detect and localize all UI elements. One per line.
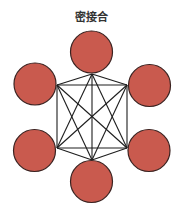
complete-graph-diagram bbox=[0, 0, 183, 215]
edge-upper-right-bottom bbox=[92, 85, 127, 160]
edge-top-upper-left bbox=[57, 74, 92, 85]
graph-edges bbox=[57, 74, 127, 160]
node-bottom bbox=[71, 161, 113, 203]
node-top bbox=[71, 31, 113, 73]
edge-top-upper-right bbox=[92, 74, 127, 85]
edge-bottom-upper-left bbox=[57, 85, 92, 160]
node-upper-left bbox=[14, 63, 56, 105]
node-lower-left bbox=[14, 130, 56, 172]
node-lower-right bbox=[128, 130, 170, 172]
node-upper-right bbox=[129, 65, 171, 107]
